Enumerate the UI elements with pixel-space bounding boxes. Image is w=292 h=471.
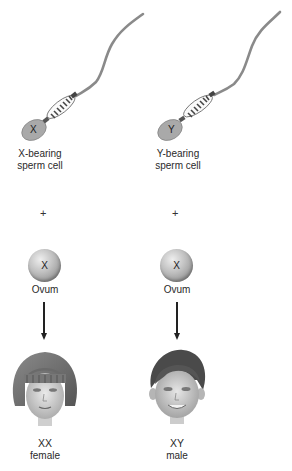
y-sperm-label: Y-bearing sperm cell (146, 148, 210, 172)
ovum-left-label: Ovum (20, 284, 70, 296)
male-child-face (137, 344, 217, 430)
ovum-left: X (28, 249, 61, 282)
arrow-right-line (176, 302, 178, 334)
plus-sign-right: + (172, 207, 178, 219)
x-sperm-label-line2: sperm cell (10, 160, 70, 172)
x-sperm-chromosome: X (30, 124, 37, 135)
ovum-left-chromosome: X (41, 260, 48, 271)
arrow-right-head (174, 333, 180, 340)
ovum-right-chromosome: X (173, 260, 180, 271)
plus-sign-left: + (40, 207, 46, 219)
male-genotype: XY (152, 437, 202, 449)
male-label: male (152, 450, 202, 462)
female-genotype: XX (20, 437, 70, 449)
y-sperm-chromosome: Y (168, 124, 175, 135)
y-sperm-label-line1: Y-bearing (146, 148, 210, 160)
ovum-right: X (160, 249, 193, 282)
female-child-face (5, 344, 85, 430)
x-sperm-label: X-bearing sperm cell (10, 148, 70, 172)
ovum-right-label: Ovum (152, 284, 202, 296)
x-sperm-label-line1: X-bearing (10, 148, 70, 160)
female-label: female (20, 450, 70, 462)
arrow-left-line (43, 302, 45, 334)
y-sperm-label-line2: sperm cell (146, 160, 210, 172)
arrow-left-head (41, 333, 47, 340)
x-sperm-illustration (0, 0, 146, 145)
